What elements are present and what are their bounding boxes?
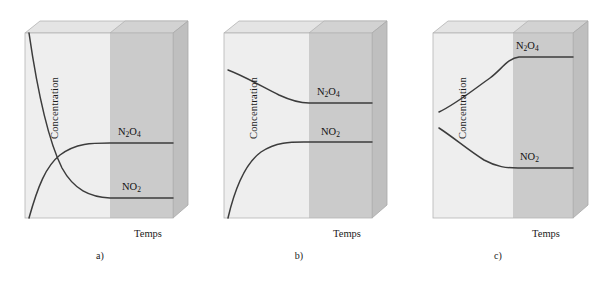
box-side-face	[372, 21, 387, 218]
x-axis-label: Temps	[307, 228, 387, 239]
panel-a: Concentration Temps N2O4 NO2 a)	[0, 0, 199, 282]
panel-caption-a: a)	[60, 250, 140, 261]
x-axis-label: Temps	[506, 228, 586, 239]
box-side-face	[573, 21, 588, 218]
curve-label-no2: NO2	[520, 151, 539, 164]
curve-label-n2o4: N2O4	[118, 126, 141, 139]
box-front-dark-zone	[309, 33, 372, 218]
box-front-light-zone	[433, 33, 513, 218]
box-front-dark-zone	[513, 33, 573, 218]
panel-caption-c: c)	[458, 250, 538, 261]
x-axis-label: Temps	[108, 228, 188, 239]
y-axis-label: Concentration	[49, 53, 60, 163]
panel-c: Concentration Temps N2O4 NO2 c)	[398, 0, 597, 282]
y-axis-label: Concentration	[248, 53, 259, 163]
panel-a-plot	[0, 0, 199, 282]
panel-caption-b: b)	[259, 250, 339, 261]
curve-label-n2o4: N2O4	[516, 40, 539, 53]
curve-label-n2o4: N2O4	[317, 86, 340, 99]
curve-label-no2: NO2	[122, 181, 141, 194]
box-side-face	[173, 21, 188, 218]
y-axis-label: Concentration	[457, 53, 468, 163]
curve-label-no2: NO2	[321, 126, 340, 139]
panel-b: Concentration Temps N2O4 NO2 b)	[199, 0, 398, 282]
panel-b-plot	[199, 0, 398, 282]
panel-c-plot	[398, 0, 597, 282]
equilibrium-figure: Concentration Temps N2O4 NO2 a) Concentr…	[0, 0, 597, 282]
